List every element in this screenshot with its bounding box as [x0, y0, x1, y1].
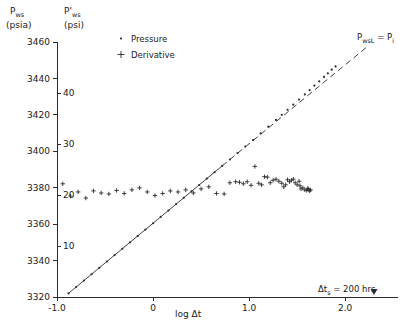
pressure-point: [275, 119, 277, 121]
legend-label-derivative: Derivative: [131, 50, 175, 60]
derivative-tick-label: 30: [63, 139, 75, 149]
pressure-point: [183, 197, 185, 199]
derivative-tick-label: 20: [63, 190, 75, 200]
derivative-point: [176, 190, 180, 194]
pressure-point: [67, 292, 69, 294]
pressure-point: [114, 254, 116, 256]
pressure-point: [252, 139, 254, 141]
pressure-point: [327, 72, 329, 74]
derivative-point: [274, 177, 278, 181]
pressure-point: [267, 126, 269, 128]
pressure-point: [292, 104, 294, 106]
derivative-axis-title-subscript: ws: [72, 11, 81, 19]
pressure-point: [160, 216, 162, 218]
pressure-point: [304, 93, 306, 95]
y-tick-label: 3340: [27, 256, 50, 266]
line-label-sub2: i: [392, 37, 394, 45]
pressure-point: [90, 273, 92, 275]
y-tick-label: 3360: [27, 219, 50, 229]
pressure-point: [129, 241, 131, 243]
x-axis-ticks: [57, 297, 345, 301]
derivative-point: [184, 188, 188, 192]
derivative-point: [265, 175, 269, 179]
left-axis-title: Pws (psia): [6, 6, 31, 30]
derivative-point: [277, 179, 281, 183]
pressure-data-points: [67, 65, 336, 294]
pressure-point: [260, 132, 262, 134]
derivative-point: [137, 186, 141, 190]
legend-label-pressure: Pressure: [131, 34, 167, 44]
x-axis-label: log Δt: [175, 309, 202, 319]
derivative-point: [207, 185, 211, 189]
derivative-point: [222, 192, 226, 196]
derivative-point: [214, 191, 218, 195]
pressure-point: [167, 209, 169, 211]
derivative-axis-tick-labels: 10203040: [63, 88, 75, 251]
y-tick-label: 3400: [27, 146, 50, 156]
pressure-point: [75, 286, 77, 288]
pressure-point: [334, 65, 336, 67]
x-tick-label: 2.0: [338, 303, 353, 313]
pressure-point: [298, 98, 300, 100]
y-tick-label: 3460: [27, 37, 50, 47]
plot-canvas: Pws (psia) P'ws (psi) 332033403360338034…: [0, 0, 402, 334]
pressure-point: [229, 158, 231, 160]
derivative-point: [253, 164, 257, 168]
pressure-point: [83, 280, 85, 282]
left-axis-title-subscript: ws: [15, 11, 24, 19]
svg-text:Pws: Pws: [10, 6, 25, 19]
derivative-point: [271, 178, 275, 182]
pressure-point: [313, 85, 315, 87]
legend: Pressure Derivative: [118, 34, 175, 60]
y-tick-label: 3420: [27, 110, 50, 120]
derivative-point: [91, 189, 95, 193]
legend-marker-pressure-icon: [120, 37, 122, 39]
y-tick-label: 3380: [27, 183, 50, 193]
derivative-point: [99, 191, 103, 195]
pressure-point: [144, 229, 146, 231]
y-tick-label: 3440: [27, 74, 50, 84]
svg-text:P'ws: P'ws: [64, 6, 81, 19]
x-tick-label: 1.0: [242, 303, 257, 313]
pressure-point: [198, 184, 200, 186]
derivative-point: [268, 181, 272, 185]
pressure-point: [281, 114, 283, 116]
derivative-point: [262, 174, 266, 178]
x-tick-label: 0: [150, 303, 156, 313]
derivative-point: [233, 180, 237, 184]
shutin-time-label: Δts = 200 hrs: [318, 284, 376, 297]
pressure-point: [190, 190, 192, 192]
derivative-axis-title-symbol: P': [64, 6, 72, 16]
pressure-point: [318, 80, 320, 82]
derivative-point: [130, 188, 134, 192]
derivative-axis-unit: (psi): [64, 20, 84, 30]
derivative-point: [237, 180, 241, 184]
derivative-point: [107, 192, 111, 196]
derivative-point: [145, 190, 149, 194]
left-axis-unit: (psia): [6, 20, 31, 30]
derivative-point: [249, 183, 253, 187]
x-tick-label: -1.0: [48, 303, 66, 313]
derivative-point: [153, 193, 157, 197]
pressure-point: [309, 89, 311, 91]
pressure-point: [206, 178, 208, 180]
derivative-tick-label: 40: [63, 88, 75, 98]
pressure-point: [98, 267, 100, 269]
extrapolated-line-label: PwsL = Pi: [357, 32, 394, 45]
trend-lines: [69, 47, 367, 293]
shutin-rest: = 200 hrs: [331, 284, 376, 294]
legend-marker-derivative-icon: [118, 51, 125, 58]
derivative-point: [84, 196, 88, 200]
pressure-point: [175, 203, 177, 205]
pressure-point: [106, 260, 108, 262]
derivative-point: [199, 187, 203, 191]
y-axis-tick-labels: 33203340336033803400342034403460: [27, 37, 50, 302]
derivative-point: [114, 188, 118, 192]
derivative-point: [245, 180, 249, 184]
line-label-sub: wsL: [362, 37, 375, 45]
pressure-point: [213, 171, 215, 173]
y-tick-label: 3320: [27, 292, 50, 302]
line-label-eq: = P: [374, 32, 392, 42]
pressure-point: [331, 69, 333, 71]
derivative-point: [122, 191, 126, 195]
